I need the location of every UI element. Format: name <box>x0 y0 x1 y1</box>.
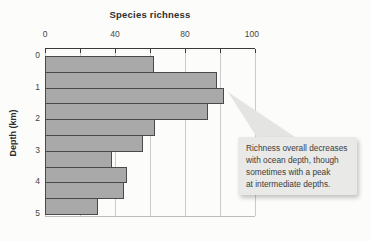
callout-text-line: at intermediate depths. <box>246 178 353 190</box>
callout-box: Richness overall decreases with ocean de… <box>238 137 357 195</box>
callout-pointer <box>0 0 370 241</box>
callout-text-line: Richness overall decreases <box>246 142 353 154</box>
callout-text-line: with ocean depth, though <box>246 154 353 166</box>
figure-canvas: Species richness 04080100 Depth (km) Ric… <box>0 0 370 241</box>
callout-text-line: sometimes with a peak <box>246 166 353 178</box>
